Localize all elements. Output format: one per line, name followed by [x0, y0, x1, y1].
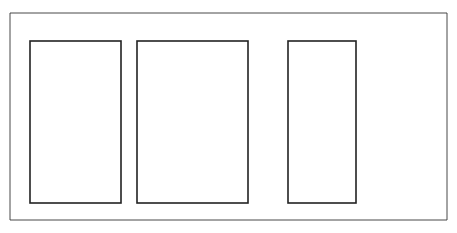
student-outcomes-box — [288, 41, 356, 203]
institutional-context-box — [137, 41, 248, 203]
outer-frame — [10, 13, 447, 220]
pre-enrollment-box — [30, 41, 121, 203]
diagram-canvas — [0, 0, 457, 233]
